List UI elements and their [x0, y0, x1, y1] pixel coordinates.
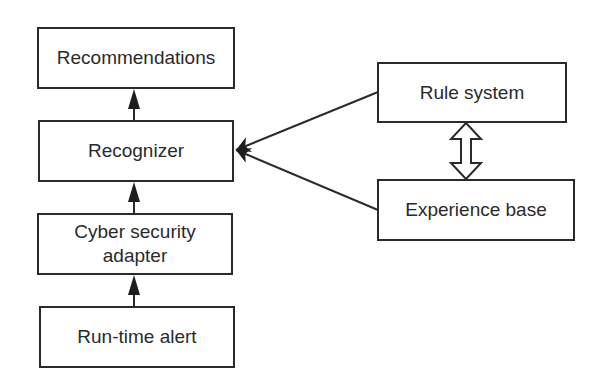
node-label: Cyber security adapter [55, 220, 215, 268]
double-arrow-rule-experience [451, 123, 481, 179]
arrow-experience-base-to-recognizer [236, 150, 378, 210]
node-label: Run-time alert [77, 325, 196, 349]
node-label: Rule system [420, 81, 525, 105]
node-label: Recommendations [57, 46, 215, 70]
node-label: Recognizer [88, 139, 184, 163]
arrow-runtime-to-adapter [128, 275, 140, 306]
node-cyber-security-adapter: Cyber security adapter [37, 213, 233, 275]
arrow-recognizer-to-recommendations [128, 89, 140, 120]
diagram-canvas: Recommendations Recognizer Cyber securit… [0, 0, 604, 383]
node-rule-system: Rule system [377, 62, 567, 123]
arrow-rule-system-to-recognizer [236, 92, 378, 150]
node-run-time-alert: Run-time alert [39, 306, 235, 368]
node-experience-base: Experience base [377, 179, 575, 241]
node-recognizer: Recognizer [38, 120, 234, 182]
node-label: Experience base [405, 198, 547, 222]
arrow-adapter-to-recognizer [128, 182, 140, 213]
node-recommendations: Recommendations [37, 27, 235, 89]
